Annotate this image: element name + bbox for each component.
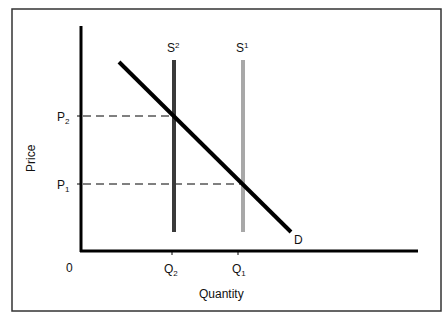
p1-label: P1 [57,178,70,194]
demand-curve-d [119,62,291,232]
chart-frame [12,9,441,311]
supply-demand-chart: S2 S1 D P2 P1 Q2 Q1 0 Quantity Price [0,0,445,319]
origin-label: 0 [66,261,73,275]
s2-label: S2 [167,41,180,55]
p2-label: P2 [57,110,70,126]
x-axis-title: Quantity [199,287,244,301]
s1-label: S1 [236,41,249,55]
q2-label: Q2 [164,262,178,278]
q1-label: Q1 [232,262,246,278]
y-axis-title: Price [24,144,38,172]
d-label: D [294,233,303,247]
